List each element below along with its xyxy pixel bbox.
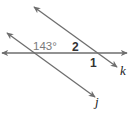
line-k [34,7,117,67]
angle-2-label: 2 [72,41,79,53]
angle-1-label: 1 [90,57,97,69]
line-j-label: j [95,95,99,108]
diagram-canvas [0,0,138,125]
given-angle-label: 143° [33,41,57,53]
parallel-lines-diagram: 143° 2 1 k j [0,0,138,125]
line-k-label: k [120,64,126,77]
